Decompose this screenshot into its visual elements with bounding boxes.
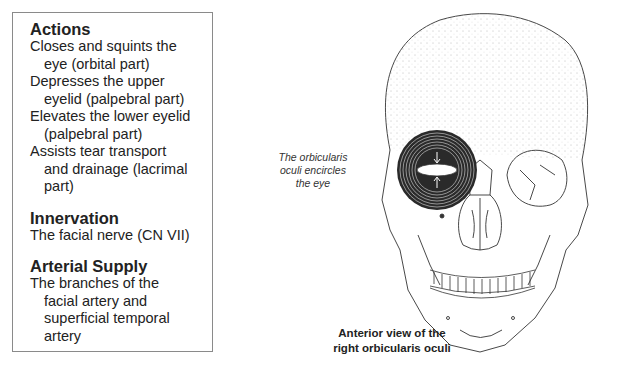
- arterial-line: facial artery and: [30, 293, 212, 311]
- actions-line: eye (orbital part): [30, 56, 212, 74]
- caption-line: right orbicularis oculi: [322, 341, 462, 356]
- arterial-line: artery: [30, 328, 212, 346]
- orbicularis-oculi-muscle: [397, 130, 477, 210]
- figure-caption: Anterior view of the right orbicularis o…: [322, 326, 462, 356]
- section-title-arterial-supply: Arterial Supply: [30, 257, 212, 275]
- actions-line: (palpebral part): [30, 126, 212, 144]
- actions-line: Elevates the lower eyelid: [30, 108, 212, 126]
- actions-line: eyelid (palpebral part): [30, 91, 212, 109]
- actions-line: Assists tear transport: [30, 143, 212, 161]
- actions-line: Depresses the upper: [30, 73, 212, 91]
- innervation-line: The facial nerve (CN VII): [30, 227, 212, 245]
- actions-line: and drainage (lacrimal: [30, 161, 212, 179]
- section-title-actions: Actions: [30, 20, 212, 38]
- info-box: Actions Closes and squints the eye (orbi…: [12, 12, 213, 352]
- arterial-line: The branches of the: [30, 275, 212, 293]
- actions-line: part): [30, 178, 212, 196]
- actions-line: Closes and squints the: [30, 38, 212, 56]
- skull-illustration: [330, 0, 618, 371]
- arterial-line: superficial temporal: [30, 310, 212, 328]
- caption-line: Anterior view of the: [322, 326, 462, 341]
- section-title-innervation: Innervation: [30, 209, 212, 227]
